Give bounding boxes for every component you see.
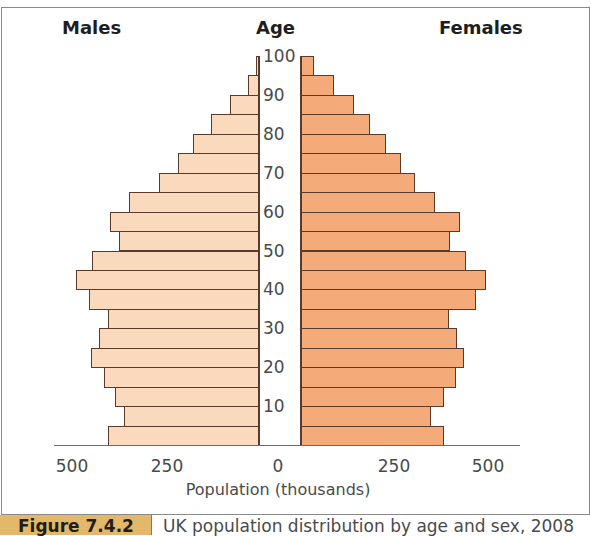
age-tick-label: 30 <box>263 319 297 337</box>
male-bar <box>159 173 260 193</box>
male-bar <box>110 212 260 232</box>
female-bar <box>300 426 444 446</box>
female-bar <box>300 406 431 426</box>
males-heading: Males <box>62 17 121 38</box>
male-bar <box>193 134 260 154</box>
female-bar <box>300 270 486 290</box>
x-axis-line <box>54 445 520 446</box>
age-tick-label: 10 <box>263 397 297 415</box>
male-bar <box>124 406 260 426</box>
figure-caption: UK population distribution by age and se… <box>163 516 574 536</box>
male-bar <box>129 192 260 212</box>
male-bar <box>89 289 260 309</box>
female-bar <box>300 328 457 348</box>
female-bar <box>300 153 401 173</box>
male-bar <box>91 348 260 368</box>
age-tick-label: 50 <box>263 242 297 260</box>
male-bar <box>104 367 260 387</box>
age-tick-label: 20 <box>263 358 297 376</box>
male-bar <box>211 114 260 134</box>
male-bar <box>256 56 260 76</box>
figure-label: Figure 7.4.2 <box>18 516 134 536</box>
age-tick-label: 60 <box>263 203 297 221</box>
age-tick-label: 100 <box>263 47 297 65</box>
female-bar <box>300 309 449 329</box>
x-tick-male-250: 250 <box>142 456 192 476</box>
age-heading: Age <box>256 17 295 38</box>
male-bar <box>76 270 260 290</box>
female-bar <box>300 387 444 407</box>
female-bar <box>300 95 354 115</box>
female-bar <box>300 173 415 193</box>
male-bar <box>99 328 260 348</box>
male-bar <box>230 95 260 115</box>
x-tick-zero: 0 <box>253 456 303 476</box>
female-bar <box>300 192 435 212</box>
female-bar <box>300 348 464 368</box>
male-bar <box>108 426 260 446</box>
age-tick-label: 90 <box>263 86 297 104</box>
female-bar <box>300 134 386 154</box>
x-axis-label: Population (thousands) <box>0 480 556 499</box>
females-heading: Females <box>439 17 523 38</box>
male-bar <box>92 251 260 271</box>
female-bar <box>300 231 450 251</box>
chart-frame <box>1 7 590 515</box>
male-bar <box>248 75 260 95</box>
age-tick-label: 40 <box>263 280 297 298</box>
female-bar <box>300 56 314 76</box>
age-tick-label: 70 <box>263 164 297 182</box>
female-bar <box>300 289 476 309</box>
female-bar <box>300 75 334 95</box>
female-bar <box>300 251 466 271</box>
male-bar <box>178 153 260 173</box>
female-bar <box>300 212 460 232</box>
x-tick-female-500: 500 <box>463 456 513 476</box>
x-tick-female-250: 250 <box>369 456 419 476</box>
female-bar <box>300 367 456 387</box>
female-bar <box>300 114 370 134</box>
x-tick-male-500: 500 <box>47 456 97 476</box>
age-tick-label: 80 <box>263 125 297 143</box>
male-bar <box>115 387 260 407</box>
male-bar <box>108 309 260 329</box>
male-bar <box>119 231 260 251</box>
